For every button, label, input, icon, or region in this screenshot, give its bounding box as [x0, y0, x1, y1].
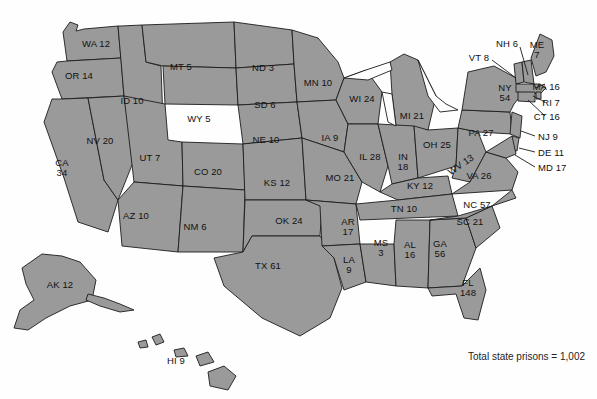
leader-line-de — [519, 148, 535, 152]
state-label-nc: NC 57 — [463, 200, 490, 210]
state-label-hi: HI 9 — [167, 356, 185, 366]
us-map-svg — [0, 0, 597, 399]
shape-CT — [518, 92, 535, 102]
state-label-de: DE 11 — [538, 148, 564, 158]
state-label-ok: OK 24 — [275, 216, 302, 226]
shape-MN — [292, 30, 344, 102]
state-label-al: AL 16 — [404, 240, 416, 261]
state-label-ak: AK 12 — [47, 280, 73, 290]
state-label-wy: WY 5 — [187, 114, 210, 124]
state-label-il: IL 28 — [359, 152, 380, 162]
state-label-va: VA 26 — [466, 171, 491, 181]
state-label-ma: MA 16 — [533, 82, 560, 92]
state-label-nm: NM 6 — [183, 222, 206, 232]
shape-KS — [243, 138, 306, 200]
state-label-co: CO 20 — [194, 167, 222, 177]
state-label-ct: CT 16 — [534, 112, 560, 122]
state-label-ne: NE 10 — [253, 135, 280, 145]
state-label-ri: RI 7 — [542, 98, 560, 108]
lake-superior — [344, 62, 392, 80]
shape-HI-3 — [196, 352, 214, 366]
shape-HI-big — [208, 366, 236, 390]
state-label-tx: TX 61 — [255, 261, 281, 271]
state-label-nv: NV 20 — [87, 136, 114, 146]
state-label-wi: WI 24 — [349, 94, 374, 104]
state-label-or: OR 14 — [65, 71, 93, 81]
state-label-nj: NJ 9 — [538, 132, 558, 142]
state-label-vt: VT 8 — [469, 53, 489, 63]
state-label-ca: CA 34 — [55, 158, 68, 179]
shape-HI — [152, 334, 164, 345]
shape-NJ — [510, 112, 522, 138]
state-label-pa: PA 27 — [468, 128, 493, 138]
state-label-oh: OH 25 — [423, 140, 451, 150]
state-label-az: AZ 10 — [123, 211, 149, 221]
state-label-in: IN 18 — [398, 152, 409, 173]
state-label-la: LA 9 — [343, 255, 355, 276]
state-label-mn: MN 10 — [304, 78, 332, 88]
total-caption: Total state prisons = 1,002 — [468, 351, 585, 362]
shape-AK — [14, 254, 96, 330]
leader-line-nj — [521, 131, 535, 136]
state-label-md: MD 17 — [538, 163, 566, 173]
state-label-ar: AR 17 — [341, 217, 354, 238]
state-label-id: ID 10 — [120, 96, 143, 106]
state-label-tn: TN 10 — [391, 204, 417, 214]
state-label-sd: SD 6 — [254, 100, 276, 110]
state-label-mi: MI 21 — [400, 111, 424, 121]
us-prison-choropleth-map: WA 12OR 14CA 34NV 20ID 10MT 5WY 5UT 7AZ … — [0, 0, 597, 399]
state-label-ut: UT 7 — [140, 153, 161, 163]
state-label-ms: MS 3 — [374, 238, 388, 259]
state-label-nd: ND 3 — [252, 63, 274, 73]
state-label-sc: SC 21 — [457, 217, 484, 227]
state-label-ga: GA 56 — [433, 239, 447, 260]
shape-HI-4 — [138, 340, 148, 348]
leader-line-md — [515, 155, 535, 167]
state-label-nh: NH 6 — [496, 39, 518, 49]
shape-AK-aleutians — [86, 294, 134, 312]
state-label-ia: IA 9 — [322, 133, 339, 143]
state-label-ks: KS 12 — [264, 178, 290, 188]
shape-NM — [178, 186, 245, 252]
shape-UT — [124, 96, 183, 186]
state-label-wa: WA 12 — [82, 39, 110, 49]
state-label-mo: MO 21 — [325, 173, 354, 183]
state-label-ny: NY 54 — [498, 83, 511, 104]
state-label-ky: KY 12 — [407, 181, 433, 191]
state-label-fl: FL 148 — [460, 278, 476, 299]
state-label-me: ME 7 — [530, 40, 544, 61]
state-label-mt: MT 5 — [170, 62, 192, 72]
